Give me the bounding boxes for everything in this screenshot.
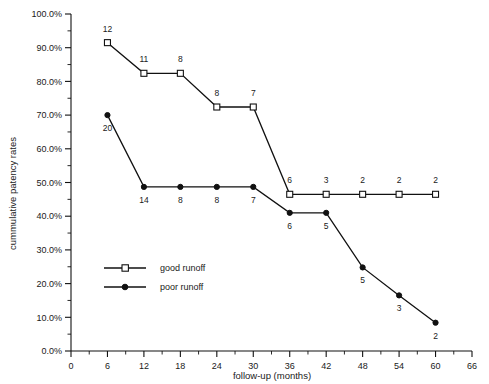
data-point-marker <box>105 113 110 118</box>
data-point-label: 3 <box>397 303 402 313</box>
data-point-label: 11 <box>139 54 148 64</box>
data-point-label: 7 <box>251 195 256 205</box>
data-point-label: 2 <box>360 175 365 185</box>
y-tick-label: 50.0% <box>36 178 62 188</box>
data-point-marker <box>214 184 219 189</box>
data-point-marker <box>433 320 438 325</box>
x-axis-title: follow-up (months) <box>233 370 311 381</box>
data-point-label: 5 <box>360 275 365 285</box>
data-point-label: 2 <box>433 175 438 185</box>
x-tick-label: 54 <box>394 361 404 371</box>
y-tick-label: 10.0% <box>36 313 62 323</box>
y-tick-label: 90.0% <box>36 43 62 53</box>
data-point-label: 20 <box>103 123 113 133</box>
legend-marker <box>122 265 128 271</box>
data-point-label: 6 <box>287 175 292 185</box>
series-good-runoff: 121188763222 <box>103 24 439 198</box>
data-point-label: 14 <box>139 195 149 205</box>
data-point-marker <box>177 70 183 76</box>
x-tick-label: 24 <box>212 361 222 371</box>
y-tick-label: 20.0% <box>36 279 62 289</box>
y-tick-label: 60.0% <box>36 144 62 154</box>
data-point-marker <box>360 191 366 197</box>
patency-rate-line-chart: 0.0%10.0%20.0%30.0%40.0%50.0%60.0%70.0%8… <box>0 0 489 384</box>
data-point-marker <box>396 293 401 298</box>
chart-legend: good runoffpoor runoff <box>104 263 206 292</box>
data-point-label: 8 <box>178 54 183 64</box>
y-tick-label: 80.0% <box>36 77 62 87</box>
data-point-label: 6 <box>287 221 292 231</box>
legend-item-good-runoff[interactable]: good runoff <box>104 263 206 273</box>
data-point-marker <box>104 40 110 46</box>
data-point-label: 2 <box>397 175 402 185</box>
data-point-marker <box>141 184 146 189</box>
x-tick-label: 42 <box>321 361 331 371</box>
legend-label: poor runoff <box>160 282 204 292</box>
data-point-label: 8 <box>214 88 219 98</box>
data-point-label: 3 <box>324 175 329 185</box>
chart-container: 0.0%10.0%20.0%30.0%40.0%50.0%60.0%70.0%8… <box>0 0 489 384</box>
x-axis-ticks: 0612182430364248546066 <box>68 351 477 371</box>
data-point-marker <box>433 191 439 197</box>
legend-marker <box>122 284 128 290</box>
data-point-marker <box>178 184 183 189</box>
data-point-marker <box>360 265 365 270</box>
x-tick-label: 18 <box>175 361 185 371</box>
y-tick-label: 0.0% <box>41 346 62 356</box>
y-tick-label: 40.0% <box>36 211 62 221</box>
legend-item-poor-runoff[interactable]: poor runoff <box>104 282 204 292</box>
legend-label: good runoff <box>160 263 206 273</box>
data-point-marker <box>287 210 292 215</box>
data-point-marker <box>324 210 329 215</box>
data-point-marker <box>323 191 329 197</box>
x-tick-label: 48 <box>358 361 368 371</box>
data-point-label: 12 <box>103 24 113 34</box>
series-polyline <box>107 43 435 195</box>
x-tick-label: 60 <box>431 361 441 371</box>
data-point-marker <box>396 191 402 197</box>
data-point-label: 5 <box>324 221 329 231</box>
x-tick-label: 12 <box>139 361 149 371</box>
x-tick-label: 0 <box>68 361 73 371</box>
data-point-label: 2 <box>433 331 438 341</box>
data-series: 121188763222201488765532 <box>103 24 439 341</box>
data-point-label: 7 <box>251 88 256 98</box>
data-point-label: 8 <box>178 195 183 205</box>
y-tick-label: 70.0% <box>36 110 62 120</box>
data-point-marker <box>287 191 293 197</box>
series-polyline <box>107 115 435 323</box>
axes <box>71 14 472 351</box>
y-tick-label: 100.0% <box>31 9 62 19</box>
x-tick-label: 66 <box>467 361 477 371</box>
data-point-marker <box>141 70 147 76</box>
data-point-marker <box>251 184 256 189</box>
data-point-label: 8 <box>214 195 219 205</box>
data-point-marker <box>250 104 256 110</box>
data-point-marker <box>214 104 220 110</box>
y-axis-ticks: 0.0%10.0%20.0%30.0%40.0%50.0%60.0%70.0%8… <box>31 9 71 356</box>
y-axis-title: cummulative patency rates <box>7 137 18 250</box>
x-tick-label: 6 <box>105 361 110 371</box>
y-tick-label: 30.0% <box>36 245 62 255</box>
